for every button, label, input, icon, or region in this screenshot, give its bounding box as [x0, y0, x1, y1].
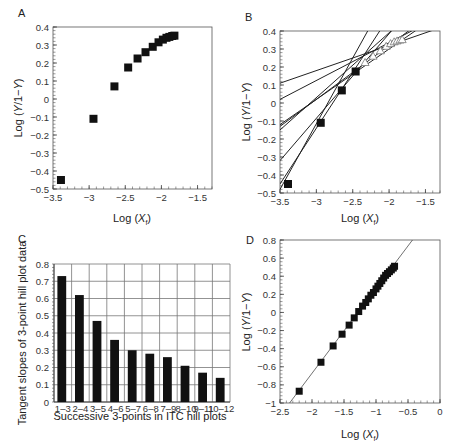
plot-frame	[53, 27, 212, 189]
y-tick-label: 0.4	[263, 271, 276, 282]
y-tick-label: 0.3	[36, 40, 49, 51]
x-tick-label: −2	[307, 406, 318, 417]
y-tick-label: −0.1	[257, 116, 276, 127]
x-tick-label: −1.5	[188, 192, 207, 203]
y-axis-label: Tangent slopes of 3-point hill plot data	[16, 240, 28, 426]
x-tick-label: −3	[84, 192, 95, 203]
y-axis-label: Log (Y/1−Y)	[240, 292, 252, 351]
y-axis-label: Log (Y/1−Y)	[240, 82, 252, 141]
y-tick-label: −0.3	[30, 148, 49, 159]
y-tick-label: −0.2	[30, 130, 49, 141]
tangent-line	[280, 28, 440, 83]
y-tick-label: 0	[271, 98, 276, 109]
y-tick-label: −1	[265, 398, 276, 409]
data-point	[134, 55, 142, 63]
panel-d: −2.5−2−1.5−1−0.50−1−0.8−0.6−0.4−0.200.20…	[240, 234, 443, 442]
x-tick-label: 0	[437, 406, 442, 417]
data-point	[351, 314, 358, 321]
tangent-line	[280, 0, 440, 130]
x-tick-label: −2	[156, 192, 167, 203]
y-tick-label: 0.6	[263, 253, 276, 264]
data-point	[124, 64, 132, 72]
panel-b: −3.5−3−2.5−2−1.5−0.5−0.4−0.3−0.2−0.100.1…	[240, 0, 440, 226]
data-point	[346, 322, 353, 329]
y-tick-label: 0.2	[36, 58, 49, 69]
y-tick-label: 0.8	[263, 235, 276, 246]
y-tick-label: 0	[44, 94, 49, 105]
y-tick-label: 0.1	[263, 80, 276, 91]
y-tick-label: 0.2	[36, 362, 49, 373]
y-tick-label: 0	[44, 397, 49, 408]
x-tick-label: −3	[311, 196, 322, 207]
tangent-line	[280, 0, 440, 189]
bar	[93, 321, 102, 402]
data-point	[317, 119, 325, 127]
bar	[110, 340, 119, 402]
y-tick-label: −0.4	[30, 166, 49, 177]
panel-a: −3.5−3−2.5−2−1.5−0.5−0.4−0.3−0.2−0.100.1…	[12, 7, 212, 226]
y-tick-label: −0.4	[257, 343, 276, 354]
x-tick-label: −2.5	[116, 192, 135, 203]
tangent-line	[280, 16, 440, 99]
y-tick-label: −0.1	[30, 112, 49, 123]
x-tick-label: −2	[384, 196, 395, 207]
data-point	[57, 176, 65, 184]
y-tick-label: −0.6	[257, 361, 276, 372]
plot-frame	[280, 240, 440, 403]
data-point	[296, 388, 303, 395]
panel-label: B	[245, 11, 252, 23]
data-point	[170, 32, 178, 40]
y-tick-label: 0.2	[263, 62, 276, 73]
bar	[181, 366, 190, 402]
y-tick-label: 0.7	[36, 276, 49, 287]
bar	[57, 276, 66, 402]
x-tick-label: −1	[371, 406, 382, 417]
y-tick-label: −0.5	[30, 184, 49, 195]
x-axis-label: Successive 3-points in ITC hill plots	[53, 410, 227, 422]
x-tick-label: −0.5	[399, 406, 418, 417]
data-point	[142, 48, 150, 56]
y-tick-label: 0.4	[36, 22, 49, 33]
y-tick-label: −0.2	[257, 325, 276, 336]
x-tick-label: −1.5	[335, 406, 354, 417]
y-tick-label: 0	[271, 307, 276, 318]
bar	[145, 354, 154, 402]
y-tick-label: 0.4	[263, 26, 276, 37]
y-tick-label: 0.5	[36, 310, 49, 321]
y-tick-label: 0.8	[36, 259, 49, 270]
data-point	[361, 59, 369, 66]
data-point	[339, 331, 346, 338]
tangent-line	[280, 0, 440, 184]
y-tick-label: 0.3	[36, 345, 49, 356]
data-point	[330, 342, 337, 349]
data-point	[284, 180, 292, 188]
tangent-line	[280, 14, 440, 125]
bar	[128, 350, 137, 402]
y-tick-label: 0.2	[263, 289, 276, 300]
y-tick-label: −0.4	[257, 170, 276, 181]
x-axis-label: Log (Xf)	[341, 212, 379, 226]
x-axis-label: Log (Xf)	[341, 428, 379, 442]
data-point	[391, 263, 398, 270]
panel-label: D	[246, 234, 254, 246]
y-tick-label: 0.4	[36, 328, 49, 339]
y-tick-label: −0.5	[257, 188, 276, 199]
x-tick-label: −1.5	[416, 196, 435, 207]
y-tick-label: 0.6	[36, 293, 49, 304]
panel-c: 00.10.20.30.40.50.60.70.81–32–43–54–65–7…	[16, 233, 234, 425]
y-tick-label: 0.1	[36, 76, 49, 87]
y-tick-label: 0.3	[263, 44, 276, 55]
y-tick-label: 0.1	[36, 379, 49, 390]
y-tick-label: −0.2	[257, 134, 276, 145]
bar	[216, 378, 225, 402]
figure: −3.5−3−2.5−2−1.5−0.5−0.4−0.3−0.2−0.100.1…	[0, 0, 458, 447]
panel-label: A	[18, 7, 26, 19]
data-point	[89, 115, 97, 123]
data-point	[110, 82, 118, 90]
data-point	[317, 359, 324, 366]
tangent-line	[280, 8, 440, 127]
bar	[163, 357, 172, 402]
bar	[198, 373, 207, 402]
bar	[75, 295, 84, 402]
data-point	[338, 86, 346, 94]
